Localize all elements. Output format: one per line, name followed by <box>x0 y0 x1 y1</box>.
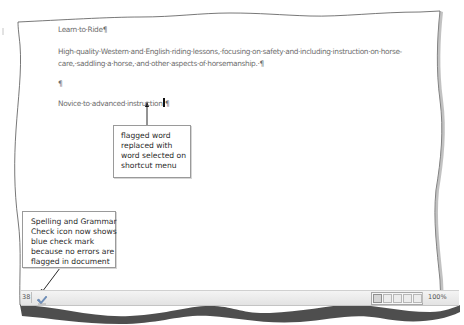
status-divider <box>422 292 423 303</box>
view-buttons-group <box>371 292 423 305</box>
callout-line: flagged word <box>121 131 185 141</box>
draft-view-button[interactable] <box>413 294 422 303</box>
novice-line-text: Novice·to·advanced·instruction <box>58 99 163 108</box>
pilcrow-mark: ¶ <box>165 99 169 108</box>
document-page: Learn·to·Ride¶ High-quality·Western·and·… <box>0 0 464 325</box>
callout-line: Spelling and Grammar <box>31 217 110 227</box>
callout-line: blue check mark <box>31 237 110 247</box>
callout-line: Check icon now shows <box>31 227 110 237</box>
doc-title-line[interactable]: Learn·to·Ride¶ <box>58 25 107 34</box>
spelling-grammar-check-icon[interactable] <box>35 292 49 303</box>
callout-flagged-word-replaced: flagged word replaced with word selected… <box>113 125 191 178</box>
doc-novice-line[interactable]: Novice·to·advanced·instruction¶ <box>58 98 169 108</box>
page-number-indicator[interactable]: 38 <box>22 293 30 301</box>
status-bar: 38 100% <box>21 290 459 306</box>
status-divider <box>31 292 32 303</box>
print-layout-view-button[interactable] <box>373 294 382 303</box>
full-screen-reading-view-button[interactable] <box>383 294 392 303</box>
zoom-level-button[interactable]: 100% <box>428 293 447 301</box>
callout-line: because no errors are <box>31 247 110 257</box>
callout-line: replaced with <box>121 141 185 151</box>
doc-empty-paragraph[interactable]: ¶ <box>58 79 62 88</box>
callout-line: flagged in document <box>31 257 110 267</box>
doc-paragraph-line-2[interactable]: care,·saddling·a·horse,·and·other·aspect… <box>58 59 264 68</box>
callout-spelling-grammar-icon: Spelling and Grammar Check icon now show… <box>22 211 116 268</box>
web-layout-view-button[interactable] <box>393 294 402 303</box>
outline-view-button[interactable] <box>403 294 412 303</box>
doc-paragraph-line-1[interactable]: High-quality·Western·and·English·riding·… <box>58 47 402 56</box>
callout-line: word selected on <box>121 151 185 161</box>
callout-line: shortcut menu <box>121 161 185 171</box>
